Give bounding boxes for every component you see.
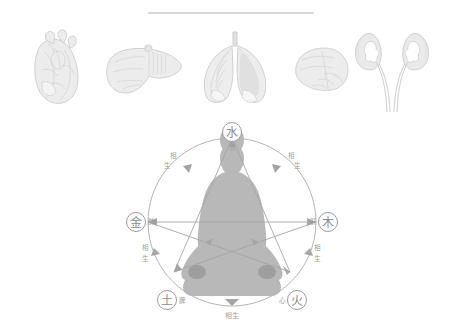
svg-text:相: 相 xyxy=(170,151,177,160)
lungs-organ-icon xyxy=(197,28,273,108)
node-earth[interactable]: 土 脾 xyxy=(158,291,186,310)
kidneys-organ-icon xyxy=(348,24,436,116)
svg-text:生: 生 xyxy=(314,254,321,263)
arc-label-wood-fire: 相 生 xyxy=(314,243,321,263)
arc-label-fire-earth: 相生 xyxy=(225,311,239,320)
svg-text:相生: 相生 xyxy=(225,311,239,320)
spleen-organ-icon xyxy=(288,44,354,96)
wuxing-five-element-diagram: 水 肾 木 肝 火 心 土 脾 xyxy=(125,122,340,322)
node-metal[interactable]: 金 肺 xyxy=(127,213,155,232)
tcm-five-element-figure: 水 肾 木 肝 火 心 土 脾 xyxy=(0,0,456,326)
organ-illustration-row xyxy=(0,22,456,112)
node-metal-element: 金 xyxy=(130,215,142,230)
svg-text:相: 相 xyxy=(142,243,149,252)
heart-organ-icon xyxy=(24,26,88,108)
svg-text:生: 生 xyxy=(294,161,301,170)
node-fire-element: 火 xyxy=(291,294,303,308)
node-fire-organ: 心 xyxy=(279,297,286,305)
node-wood-element: 木 xyxy=(322,216,334,230)
arc-label-earth-metal: 相 生 xyxy=(142,243,149,263)
node-water-organ: 肾 xyxy=(229,143,236,152)
svg-text:相: 相 xyxy=(288,151,295,160)
node-earth-organ: 脾 xyxy=(179,296,186,305)
node-fire[interactable]: 火 心 xyxy=(279,291,307,310)
svg-text:生: 生 xyxy=(142,254,149,263)
node-water-element: 水 xyxy=(226,126,238,140)
liver-organ-icon xyxy=(103,42,185,98)
svg-text:相: 相 xyxy=(314,243,321,252)
svg-text:生: 生 xyxy=(164,161,171,170)
node-earth-element: 土 xyxy=(161,294,173,308)
node-wood-organ: 肝 xyxy=(310,218,317,226)
node-metal-organ: 肺 xyxy=(148,218,155,226)
top-divider xyxy=(148,12,314,14)
node-wood[interactable]: 木 肝 xyxy=(310,213,338,232)
